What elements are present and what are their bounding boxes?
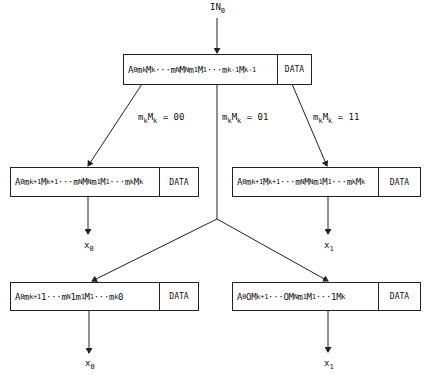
mid-left-address-field: A0mk+1Mk+1···mNMNm1M1···mkMk — [11, 168, 159, 196]
output-sub: 1 — [329, 363, 333, 371]
top-register-address-field: A0mkMk···mNMNm1M1···mk-1Mk-1 — [124, 55, 277, 84]
symbol: ···m — [280, 177, 300, 187]
output-sub: 1 — [329, 245, 333, 253]
symbol: ···OM — [268, 292, 294, 302]
symbol: 1···m — [41, 292, 67, 302]
mid-left-output-label: x0 — [84, 240, 94, 250]
symbol: m — [189, 65, 194, 75]
mid-right-data-field: DATA — [378, 168, 420, 196]
symbol: M — [198, 65, 203, 75]
symbol: ···m — [207, 65, 227, 75]
symbol: ···m — [94, 292, 114, 302]
output-sub: 0 — [90, 363, 94, 371]
mid-right-address-field: A0mk+1Mk+1···mNMNm1M1···mkMk — [233, 168, 378, 196]
symbol: = 11 — [332, 112, 359, 122]
bottom-right-data-field: DATA — [378, 283, 420, 310]
bottom-right-address-field: A0OMk+1···OMNm1M1···1Mk — [233, 283, 378, 310]
symbol: 1m — [70, 292, 80, 302]
symbol: ···1M — [316, 292, 342, 302]
bottom-left-address-field: A0mk+11···mN1m1M1···mk0 — [11, 283, 159, 310]
split-arrow-left — [92, 219, 217, 281]
bottom-right-register: A0OMk+1···OMNm1M1···1Mk DATA — [232, 282, 421, 311]
symbol: M — [85, 292, 90, 302]
symbol: m — [298, 292, 303, 302]
input-label-base: IN — [210, 2, 221, 12]
branch-label-00: mkMk = 00 — [138, 112, 184, 122]
symbol: ···m — [331, 177, 351, 187]
bottom-right-output-label: x1 — [324, 358, 334, 368]
mid-left-register: A0mk+1Mk+1···mNMNm1M1···mkMk DATA — [10, 167, 199, 197]
branch-arrow-11 — [292, 84, 327, 166]
bottom-left-register: A0mk+11···mN1m1M1···mk0 DATA — [10, 282, 199, 311]
top-register-data-field: DATA — [277, 55, 311, 84]
branch-label-01: mkMk = 01 — [222, 112, 268, 122]
mid-right-register: A0mk+1Mk+1···mNMNm1M1···mkMk DATA — [232, 167, 421, 197]
symbol: ···m — [155, 65, 175, 75]
output-sub: 0 — [89, 245, 93, 253]
split-arrow-right — [217, 219, 328, 281]
input-label-sub: 0 — [221, 7, 225, 15]
top-register: A0mkMk···mNMNm1M1···mk-1Mk-1 DATA — [123, 54, 312, 85]
symbol: ···m — [58, 177, 78, 187]
symbol: M — [307, 292, 312, 302]
symbol: ···m — [109, 177, 129, 187]
bottom-left-data-field: DATA — [159, 283, 198, 310]
bottom-left-output-label: x0 — [85, 358, 95, 368]
symbol: M — [180, 65, 185, 75]
branch-arrow-00 — [88, 84, 142, 166]
symbol: OM — [246, 292, 256, 302]
symbol: 0 — [118, 292, 123, 302]
branch-label-11: mkMk = 11 — [313, 112, 359, 122]
symbol: = 01 — [241, 112, 268, 122]
mid-left-data-field: DATA — [159, 168, 198, 196]
symbol: = 00 — [157, 112, 184, 122]
mid-right-output-label: x1 — [324, 240, 334, 250]
input-label: IN0 — [210, 2, 225, 12]
